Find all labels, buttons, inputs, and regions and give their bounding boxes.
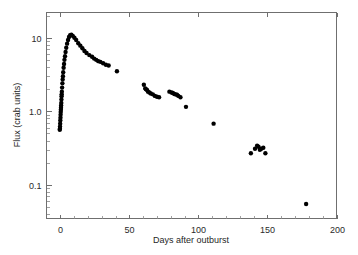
- data-point: [178, 95, 182, 99]
- x-tick-label: 150: [260, 225, 275, 235]
- data-point: [261, 146, 265, 150]
- data-point: [184, 105, 188, 109]
- plot-frame: [47, 13, 337, 219]
- data-point: [61, 70, 65, 74]
- y-tick-label: 1.0: [29, 107, 42, 117]
- y-axis-tick-labels: 101.00.1: [29, 34, 42, 191]
- data-point: [157, 95, 161, 99]
- x-tick-label: 200: [330, 225, 345, 235]
- data-point: [61, 66, 65, 70]
- y-axis-ticks: [47, 17, 52, 215]
- data-point: [60, 85, 64, 89]
- x-tick-label: 100: [191, 225, 206, 235]
- data-point: [63, 54, 67, 58]
- x-tick-label: 0: [58, 225, 63, 235]
- x-axis-tick-labels: 050100150200: [58, 225, 345, 235]
- flux-decay-scatter-plot: 050100150200 101.00.1 Days after outburs…: [0, 0, 358, 255]
- x-axis-title: Days after outburst: [153, 235, 230, 245]
- data-point: [60, 81, 64, 85]
- data-point: [304, 202, 308, 206]
- data-point: [63, 50, 67, 54]
- chart-figure: 050100150200 101.00.1 Days after outburs…: [0, 0, 358, 255]
- x-tick-label: 50: [124, 225, 134, 235]
- data-points-layer: [58, 32, 309, 206]
- data-point: [106, 63, 110, 67]
- data-point: [64, 46, 68, 50]
- y-tick-label: 0.1: [29, 181, 42, 191]
- y-tick-label: 10: [31, 34, 41, 44]
- x-axis-ticks: [61, 13, 338, 219]
- data-point: [249, 151, 253, 155]
- data-point: [211, 121, 215, 125]
- data-point: [61, 74, 65, 78]
- data-point: [263, 151, 267, 155]
- data-point: [115, 69, 119, 73]
- data-point: [62, 62, 66, 66]
- y-axis-title: Flux (crab units): [12, 83, 22, 148]
- data-point: [60, 89, 64, 93]
